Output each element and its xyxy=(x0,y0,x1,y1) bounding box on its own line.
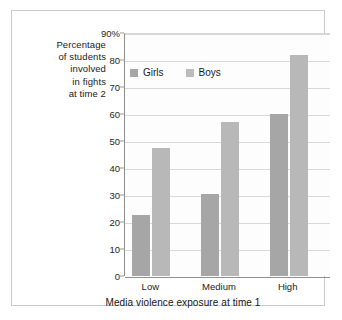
gridline xyxy=(125,277,330,278)
x-axis-tick-label-medium: Medium xyxy=(202,281,236,292)
bar-boys-low xyxy=(152,148,170,276)
bar-girls-low xyxy=(132,215,150,276)
bar-girls-medium xyxy=(201,194,219,276)
y-axis-tick-label: 30 xyxy=(86,190,120,201)
bar-boys-medium xyxy=(221,122,239,276)
legend-entry-girls: Girls xyxy=(130,67,164,78)
chart-figure-frame: Percentage of students involved in fight… xyxy=(11,10,325,306)
legend-label-boys: Boys xyxy=(199,67,221,78)
gridline xyxy=(125,34,330,35)
legend-label-girls: Girls xyxy=(143,67,164,78)
x-axis-title: Media violence exposure at time 1 xyxy=(12,297,342,308)
legend-swatch-icon-boys xyxy=(186,69,194,77)
legend-swatch-icon-girls xyxy=(130,69,138,77)
y-axis-tick-label: 50 xyxy=(86,136,120,147)
legend-entry-boys: Boys xyxy=(186,67,221,78)
y-axis-tick-labels: 0102030405060708090% xyxy=(86,33,120,276)
x-axis-tick-labels: LowMediumHigh xyxy=(124,281,330,295)
y-axis-tick-label: 90% xyxy=(86,28,120,39)
y-axis-tick-label: 80 xyxy=(86,55,120,66)
y-axis-tick-label: 20 xyxy=(86,217,120,228)
x-axis-tick-label-high: High xyxy=(278,281,298,292)
chart-legend: Girls Boys xyxy=(130,67,221,78)
y-axis-tick-label: 70 xyxy=(86,82,120,93)
y-axis-tick-label: 10 xyxy=(86,244,120,255)
x-axis-tick-label-low: Low xyxy=(142,281,159,292)
y-axis-tick-label: 60 xyxy=(86,109,120,120)
bar-boys-high xyxy=(290,55,308,276)
y-axis-tick-label: 0 xyxy=(86,271,120,282)
bar-girls-high xyxy=(270,114,288,276)
y-axis-tick-label: 40 xyxy=(86,163,120,174)
